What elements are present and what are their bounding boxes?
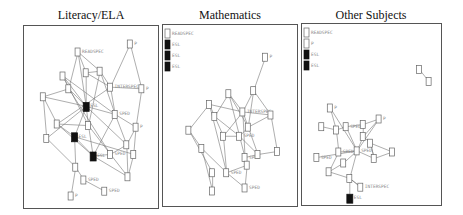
network-node — [112, 110, 117, 118]
network-edge — [271, 115, 277, 151]
network-edge — [127, 145, 128, 177]
legend-swatch — [304, 50, 309, 59]
network-graph-other-subjects: PPSPEDSPEDSPEDSPEDINTERSPECESLREADSPECPE… — [302, 24, 443, 207]
network-edge — [57, 124, 88, 126]
network-node-dark — [83, 102, 89, 111]
network-node — [242, 154, 247, 162]
network-node — [245, 123, 250, 131]
network-node — [274, 147, 279, 155]
network-node-label: P — [334, 105, 337, 110]
network-node — [66, 85, 71, 93]
network-node — [336, 148, 341, 156]
network-node — [186, 126, 191, 134]
network-node-label: INTERSPEC — [115, 84, 140, 89]
network-edge — [215, 117, 240, 137]
network-edge — [254, 57, 266, 90]
network-graph-mathematics: PINTERSPECSPEDSPEDSPEDSPEDREADSPECESLESL… — [163, 25, 299, 208]
legend-label: P — [311, 41, 314, 46]
legend-label: ESL — [311, 63, 319, 68]
network-node — [263, 53, 268, 61]
network-node — [255, 151, 260, 159]
legend-label: ESL — [172, 42, 180, 47]
legend-swatch — [165, 40, 170, 49]
network-edge — [136, 89, 142, 127]
network-edge — [229, 94, 248, 127]
network-edge — [78, 52, 86, 106]
network-node-label: SPED — [361, 148, 372, 153]
network-node-label: SPED — [350, 124, 361, 129]
network-node-dark — [72, 133, 78, 142]
network-node — [416, 66, 421, 74]
network-edge — [93, 114, 115, 156]
network-edge — [115, 114, 127, 144]
network-node-label: SPED — [231, 170, 242, 175]
legend-swatch — [165, 62, 170, 71]
network-node — [131, 150, 136, 158]
network-node — [341, 159, 346, 167]
network-node-label: ESL — [90, 103, 98, 108]
network-node — [210, 169, 215, 177]
network-node-label: SPED — [119, 111, 130, 116]
network-edge — [89, 126, 94, 156]
legend-label: ESL — [311, 52, 319, 57]
network-node — [347, 174, 352, 182]
network-edge — [63, 76, 89, 126]
legend-swatch — [304, 39, 309, 48]
network-node — [376, 115, 381, 123]
network-node — [212, 113, 217, 121]
network-node-label: SPED — [249, 185, 260, 190]
legend-swatch — [165, 29, 170, 38]
network-node-label: READSPEC — [82, 49, 104, 54]
network-edge — [47, 138, 76, 167]
network-node — [125, 173, 130, 181]
legend-swatch — [304, 28, 309, 37]
legend-swatch — [304, 61, 309, 70]
network-node-label: ESL — [97, 153, 105, 158]
network-node-label: INTERSPEC — [365, 184, 390, 189]
network-node — [319, 123, 324, 131]
network-node-label: SPED — [244, 133, 255, 138]
network-node — [224, 169, 229, 177]
network-node — [102, 187, 107, 195]
network-edge — [111, 44, 131, 87]
network-node — [220, 132, 225, 140]
panel-title-mathematics: Mathematics — [162, 8, 298, 23]
panel-title-literacy: Literacy/ELA — [23, 8, 159, 23]
network-node — [206, 100, 211, 108]
network-node — [44, 134, 49, 142]
network-edge — [93, 156, 128, 177]
network-node — [139, 85, 144, 93]
network-node — [268, 111, 273, 119]
network-node — [240, 108, 245, 116]
network-node-label: P — [270, 54, 273, 59]
network-node — [226, 90, 231, 98]
network-node — [54, 120, 59, 128]
network-node-dark — [90, 152, 96, 161]
network-node — [327, 104, 332, 112]
network-node-label: SPED — [88, 177, 99, 182]
network-node — [360, 133, 365, 141]
network-node — [86, 122, 91, 130]
network-node — [237, 132, 242, 140]
panel-title-other-subjects: Other Subjects — [301, 8, 441, 23]
network-node-dark — [347, 194, 353, 203]
network-node — [333, 126, 338, 134]
network-node — [358, 183, 363, 191]
network-node — [68, 192, 73, 200]
network-node — [199, 144, 204, 152]
network-node-label: SPED — [321, 155, 332, 160]
network-node — [343, 123, 348, 131]
legend-label: ESL — [172, 53, 180, 58]
network-edge — [229, 94, 240, 137]
network-node — [251, 87, 256, 95]
legend-label: READSPEC — [311, 30, 333, 35]
network-node — [83, 69, 88, 77]
network-node — [108, 83, 113, 91]
network-node — [371, 155, 376, 163]
legend-label: ESL — [172, 64, 180, 69]
network-node — [354, 147, 359, 155]
network-node-label: SPED — [115, 151, 126, 156]
network-edge — [43, 89, 69, 97]
legend-swatch — [165, 51, 170, 60]
network-node — [210, 187, 215, 195]
